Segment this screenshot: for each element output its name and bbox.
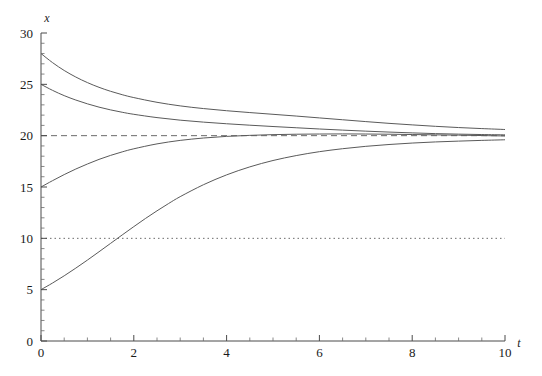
x-axis-label: t — [517, 336, 521, 350]
tick-labels-group: 0510152025300246810 — [20, 26, 512, 361]
solution-curves-group — [41, 54, 505, 290]
y-tick-label-15: 15 — [20, 180, 33, 195]
x-tick-label-10: 10 — [499, 345, 512, 360]
x-tick-label-2: 2 — [131, 345, 138, 360]
y-tick-label-0: 0 — [27, 334, 34, 349]
y-tick-label-30: 30 — [20, 26, 33, 41]
y-tick-label-10: 10 — [20, 231, 33, 246]
x-tick-label-0: 0 — [38, 345, 45, 360]
x-tick-label-6: 6 — [316, 345, 323, 360]
tick-marks-group — [41, 33, 505, 341]
y-tick-label-5: 5 — [27, 282, 34, 297]
curve-x0-5 — [41, 140, 505, 290]
reference-lines-group — [41, 136, 505, 239]
logistic-growth-figure: 0510152025300246810 x t — [0, 0, 542, 376]
curve-x0-25 — [41, 84, 505, 135]
curve-x0-28 — [41, 54, 505, 130]
plot-area: 0510152025300246810 x t — [0, 0, 542, 376]
x-tick-label-8: 8 — [409, 345, 416, 360]
y-axis-label: x — [43, 11, 50, 25]
y-tick-label-25: 25 — [20, 77, 33, 92]
axes-group — [41, 33, 505, 341]
x-tick-label-4: 4 — [223, 345, 230, 360]
y-tick-label-20: 20 — [20, 128, 33, 143]
